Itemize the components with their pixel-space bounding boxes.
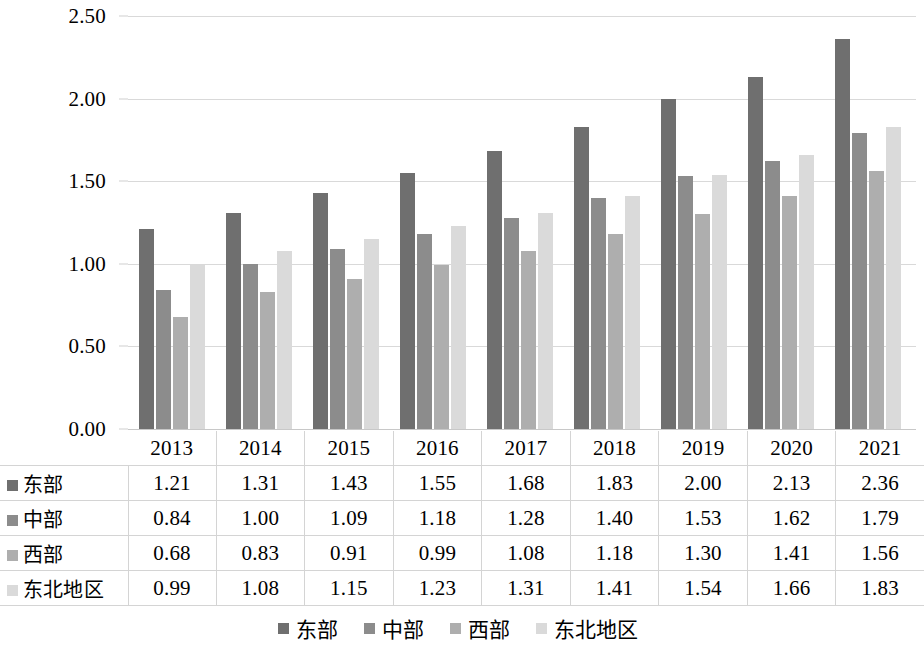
table-row-label: 东部: [23, 469, 63, 498]
table-column-header: 2016: [393, 431, 482, 466]
bar: [173, 317, 188, 429]
table-row-label: 西部: [23, 539, 63, 568]
legend-color-swatch-icon: [450, 623, 461, 634]
table-cell: 0.91: [305, 536, 394, 571]
table-column-header: 2017: [482, 431, 571, 466]
table-cell: 1.18: [570, 536, 659, 571]
table-cell: 1.43: [305, 466, 394, 501]
bar-group: [738, 16, 825, 429]
series-color-swatch-icon: [7, 585, 18, 596]
bar: [260, 292, 275, 429]
bar: [748, 77, 763, 429]
table-cell: 0.84: [128, 501, 216, 536]
legend-item[interactable]: 东部: [278, 613, 338, 643]
bar: [765, 161, 780, 429]
bar: [712, 175, 727, 429]
legend-item-label: 东北地区: [554, 613, 638, 643]
table-cell: 2.36: [836, 466, 924, 501]
table-cell: 1.09: [305, 501, 394, 536]
legend-item[interactable]: 西部: [450, 613, 510, 643]
y-axis-tick-mark: [119, 429, 128, 430]
table-row-header: 西部: [0, 536, 128, 571]
table-corner-cell: [0, 431, 128, 466]
table-cell: 1.15: [305, 571, 394, 606]
bar: [661, 99, 676, 429]
bars-layer: [128, 0, 916, 431]
table-cell: 1.53: [659, 501, 748, 536]
table-cell: 1.68: [482, 466, 571, 501]
bar: [313, 193, 328, 429]
bar: [695, 214, 710, 429]
table-cell: 2.13: [747, 466, 836, 501]
bar-group: [302, 16, 389, 429]
table-cell: 1.28: [482, 501, 571, 536]
table-cell: 1.79: [836, 501, 924, 536]
bar: [417, 234, 432, 429]
table-column-header: 2014: [216, 431, 305, 466]
y-axis-tick-label: 0.50: [68, 336, 106, 357]
bar-group: [825, 16, 912, 429]
bar: [347, 279, 362, 429]
y-axis-tick-mark: [119, 16, 128, 17]
bar: [434, 265, 449, 429]
table-row-label: 中部: [23, 504, 63, 533]
bar-group: [128, 16, 215, 429]
y-axis-tick-label: 2.50: [68, 6, 106, 27]
table-cell: 0.99: [393, 536, 482, 571]
bar: [782, 196, 797, 429]
table-cell: 1.41: [570, 571, 659, 606]
table-cell: 1.40: [570, 501, 659, 536]
table-row: 东北地区0.991.081.151.231.311.411.541.661.83: [0, 571, 924, 606]
bar-group: [215, 16, 302, 429]
table-row-header: 东北地区: [0, 571, 128, 606]
bar: [190, 265, 205, 429]
table-cell: 1.08: [216, 571, 305, 606]
bar: [852, 133, 867, 429]
series-color-swatch-icon: [7, 480, 18, 491]
table-cell: 2.00: [659, 466, 748, 501]
table-cell: 1.83: [836, 571, 924, 606]
y-axis-tick-label: 1.00: [68, 253, 106, 274]
legend-color-swatch-icon: [536, 623, 547, 634]
bar: [364, 239, 379, 429]
y-axis-tick-mark: [119, 263, 128, 264]
table-column-header: 2019: [659, 431, 748, 466]
legend-item[interactable]: 东北地区: [536, 613, 638, 643]
y-axis-tick-label: 1.50: [68, 171, 106, 192]
bar: [226, 213, 241, 429]
table-column-header: 2020: [747, 431, 836, 466]
table-row-header: 东部: [0, 466, 128, 501]
bar: [400, 173, 415, 429]
legend-item[interactable]: 中部: [364, 613, 424, 643]
table-cell: 1.23: [393, 571, 482, 606]
bar: [835, 39, 850, 429]
table-cell: 0.68: [128, 536, 216, 571]
bar: [487, 151, 502, 429]
table-cell: 1.08: [482, 536, 571, 571]
bar: [574, 127, 589, 429]
table-column-header: 2015: [305, 431, 394, 466]
bar-group: [476, 16, 563, 429]
table-cell: 1.18: [393, 501, 482, 536]
table-cell: 1.31: [216, 466, 305, 501]
bar: [799, 155, 814, 429]
y-axis: 0.000.501.001.502.002.50: [0, 0, 128, 431]
y-axis-tick-mark: [119, 346, 128, 347]
table-row: 中部0.841.001.091.181.281.401.531.621.79: [0, 501, 924, 536]
table-column-header: 2021: [836, 431, 924, 466]
bar: [869, 171, 884, 429]
plot-region: 0.000.501.001.502.002.50: [0, 0, 916, 431]
legend-item-label: 西部: [468, 613, 510, 643]
legend-color-swatch-icon: [364, 623, 375, 634]
table-cell: 0.83: [216, 536, 305, 571]
bar-group: [564, 16, 651, 429]
legend-item-label: 中部: [382, 613, 424, 643]
bar: [243, 264, 258, 429]
table-cell: 1.41: [747, 536, 836, 571]
table-cell: 1.30: [659, 536, 748, 571]
bar: [504, 218, 519, 429]
series-color-swatch-icon: [7, 515, 18, 526]
table-column-header: 2013: [128, 431, 216, 466]
bar: [521, 251, 536, 429]
